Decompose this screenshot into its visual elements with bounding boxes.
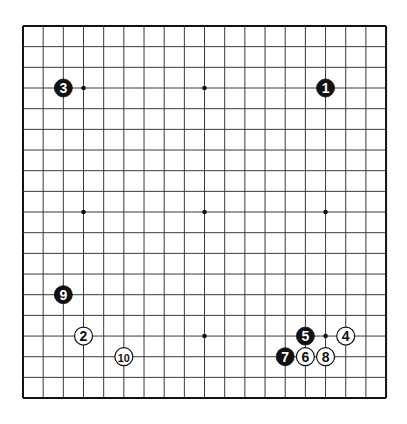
stone-white-move-4: 4: [337, 327, 355, 345]
move-number-label: 8: [322, 349, 330, 365]
move-number-label: 6: [301, 349, 309, 365]
move-number-label: 5: [301, 328, 309, 344]
move-number-label: 2: [80, 328, 88, 344]
stone-black-move-1: 1: [317, 79, 335, 97]
move-number-label: 9: [59, 287, 67, 303]
move-number-label: 10: [118, 352, 130, 364]
move-number-label: 1: [322, 80, 330, 96]
stone-black-move-5: 5: [296, 327, 314, 345]
move-number-label: 7: [281, 349, 289, 365]
stone-white-move-10: 10: [115, 348, 133, 366]
star-point: [81, 86, 86, 91]
star-point: [323, 210, 328, 215]
stone-white-move-8: 8: [317, 348, 335, 366]
star-point: [81, 210, 86, 215]
stone-black-move-7: 7: [276, 348, 294, 366]
stone-white-move-6: 6: [296, 348, 314, 366]
star-point: [202, 86, 207, 91]
stone-black-move-9: 9: [54, 286, 72, 304]
star-point: [202, 334, 207, 339]
go-board[interactable]: 12345678910: [0, 0, 407, 424]
stone-white-move-2: 2: [75, 327, 93, 345]
move-number-label: 4: [342, 328, 350, 344]
move-number-label: 3: [59, 80, 67, 96]
star-point: [323, 334, 328, 339]
star-point: [202, 210, 207, 215]
stone-black-move-3: 3: [54, 79, 72, 97]
